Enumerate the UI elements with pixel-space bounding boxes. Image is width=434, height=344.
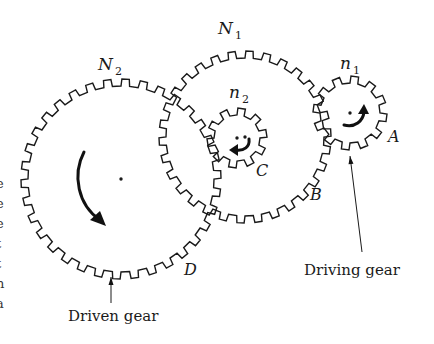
point-label-A: A bbox=[386, 127, 400, 146]
gear-center-N1 bbox=[243, 135, 246, 138]
gear-label-n2: n2 bbox=[229, 82, 249, 106]
driving-gear-leader bbox=[350, 156, 362, 252]
driven-gear-callout: Driven gear bbox=[68, 277, 159, 325]
driven-gear-label: Driven gear bbox=[68, 307, 159, 325]
cropped-margin-text: eeettna bbox=[0, 176, 5, 311]
gear-center-N2 bbox=[119, 177, 122, 180]
gear-train-diagram: N2DN1Bn2Cn1A Driving gear Driven gear ee… bbox=[0, 0, 434, 344]
rotation-arrow-N2 bbox=[78, 152, 106, 226]
driving-gear-callout: Driving gear bbox=[304, 156, 401, 279]
margin-fragment: t bbox=[0, 256, 2, 271]
gear-labels: N2DN1Bn2Cn1A bbox=[97, 18, 400, 279]
rotation-arrow-n1 bbox=[344, 104, 369, 126]
margin-fragment: a bbox=[0, 296, 4, 311]
margin-fragment: e bbox=[0, 176, 4, 191]
rotation-arrow-n2 bbox=[229, 139, 249, 156]
point-label-D: D bbox=[183, 260, 197, 279]
driving-gear-arrowhead bbox=[349, 156, 354, 164]
point-label-C: C bbox=[256, 161, 268, 180]
gear-center-n1 bbox=[348, 111, 351, 114]
gear-label-N1: N1 bbox=[217, 18, 242, 42]
margin-fragment: e bbox=[0, 216, 4, 231]
gear-center-n2 bbox=[235, 136, 238, 139]
margin-fragment: t bbox=[0, 236, 2, 251]
driving-gear-label: Driving gear bbox=[304, 261, 401, 279]
gear-label-n1: n1 bbox=[340, 53, 360, 77]
gears-layer bbox=[21, 51, 387, 279]
point-label-B: B bbox=[309, 185, 322, 204]
gear-label-N2: N2 bbox=[97, 54, 122, 78]
margin-fragment: n bbox=[0, 276, 5, 291]
margin-fragment: e bbox=[0, 196, 4, 211]
